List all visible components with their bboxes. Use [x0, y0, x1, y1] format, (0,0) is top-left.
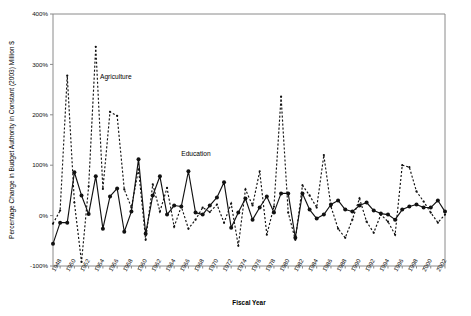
data-point-education — [137, 157, 141, 161]
data-point-education — [194, 211, 198, 215]
data-point-agriculture — [266, 234, 268, 236]
data-point-agriculture — [366, 221, 368, 223]
x-tick-label: 1968 — [193, 257, 205, 272]
data-point-agriculture — [244, 188, 246, 190]
x-tick-label: 1984 — [307, 257, 319, 272]
data-point-agriculture — [251, 204, 253, 206]
data-point-education — [208, 204, 212, 208]
x-tick-label: 1986 — [322, 257, 334, 272]
x-tick-label: 1956 — [108, 257, 120, 272]
x-tick-label: 2000 — [421, 257, 433, 272]
data-point-agriculture — [59, 209, 61, 211]
data-point-education — [80, 193, 84, 197]
y-tick-label: 200% — [32, 111, 48, 118]
data-point-education — [308, 208, 312, 212]
data-point-education — [272, 211, 276, 215]
data-point-education — [51, 242, 55, 246]
y-tick-label: 300% — [32, 61, 48, 68]
data-point-education — [379, 212, 383, 216]
x-tick-label: 1982 — [293, 257, 305, 272]
data-point-education — [222, 180, 226, 184]
data-point-agriculture — [287, 211, 289, 213]
data-point-agriculture — [123, 188, 125, 190]
data-point-agriculture — [401, 164, 403, 166]
data-point-agriculture — [202, 206, 204, 208]
data-point-education — [386, 213, 390, 217]
data-point-agriculture — [387, 221, 389, 223]
data-point-education — [436, 198, 440, 202]
data-point-agriculture — [308, 194, 310, 196]
y-tick-label: -100% — [30, 262, 48, 269]
data-point-agriculture — [173, 226, 175, 228]
data-point-agriculture — [73, 201, 75, 203]
data-point-agriculture — [88, 185, 90, 187]
data-point-education — [129, 210, 133, 214]
data-point-education — [94, 174, 98, 178]
data-point-education — [343, 208, 347, 212]
y-tick-label: 0% — [39, 212, 48, 219]
data-point-agriculture — [109, 111, 111, 113]
series-annotation-agriculture: Agriculture — [100, 73, 132, 81]
data-point-agriculture — [194, 219, 196, 221]
data-point-education — [279, 191, 283, 195]
data-point-education — [251, 218, 255, 222]
data-point-agriculture — [430, 211, 432, 213]
x-tick-label: 1966 — [179, 257, 191, 272]
data-point-education — [215, 195, 219, 199]
data-point-agriculture — [95, 46, 97, 48]
data-point-education — [329, 203, 333, 207]
data-point-agriculture — [337, 228, 339, 230]
x-axis-ticks: 1948195019521954195619581960196219641966… — [51, 257, 448, 272]
data-point-education — [122, 230, 126, 234]
data-point-agriculture — [116, 115, 118, 117]
data-point-education — [422, 206, 426, 210]
data-point-agriculture — [373, 232, 375, 234]
data-point-agriculture — [80, 261, 82, 263]
plot-frame — [53, 14, 445, 266]
data-point-education — [72, 170, 76, 174]
data-point-education — [286, 191, 290, 195]
data-point-education — [172, 204, 176, 208]
data-point-education — [236, 211, 240, 215]
data-point-education — [393, 218, 397, 222]
data-point-education — [65, 221, 69, 225]
x-tick-label: 1990 — [350, 257, 362, 272]
data-point-agriculture — [301, 184, 303, 186]
data-point-agriculture — [273, 205, 275, 207]
x-tick-label: 1996 — [393, 257, 405, 272]
data-point-education — [293, 236, 297, 240]
data-point-education — [158, 174, 162, 178]
x-tick-label: 1960 — [136, 257, 148, 272]
x-tick-label: 1998 — [407, 257, 419, 272]
data-point-education — [350, 210, 354, 214]
data-point-agriculture — [394, 234, 396, 236]
data-point-education — [186, 169, 190, 173]
data-point-education — [101, 227, 105, 231]
x-tick-label: 1972 — [222, 257, 234, 272]
data-point-education — [265, 194, 269, 198]
data-point-agriculture — [230, 202, 232, 204]
chart-container: -100%0%100%200%300%400% 1948195019521954… — [0, 0, 471, 316]
y-tick-label: 100% — [32, 161, 48, 168]
data-point-education — [201, 213, 205, 217]
data-point-education — [165, 213, 169, 217]
y-axis-title: Percentage Change in Budget Authority in… — [8, 41, 16, 239]
data-point-education — [365, 201, 369, 205]
x-tick-label: 1980 — [279, 257, 291, 272]
data-point-agriculture — [187, 228, 189, 230]
data-point-agriculture — [358, 197, 360, 199]
data-point-agriculture — [280, 96, 282, 98]
data-point-education — [258, 206, 262, 210]
y-tick-label: 400% — [32, 10, 48, 17]
data-point-education — [300, 191, 304, 195]
data-point-agriculture — [152, 183, 154, 185]
x-tick-label: 1958 — [122, 257, 134, 272]
series-annotation-education: Education — [181, 150, 211, 157]
data-point-agriculture — [415, 190, 417, 192]
percentage-change-budget-authority-chart: -100%0%100%200%300%400% 1948195019521954… — [0, 0, 471, 316]
x-tick-label: 1974 — [236, 257, 248, 272]
data-point-education — [144, 232, 148, 236]
data-point-education — [179, 205, 183, 209]
data-point-education — [429, 206, 433, 210]
data-point-agriculture — [259, 170, 261, 172]
